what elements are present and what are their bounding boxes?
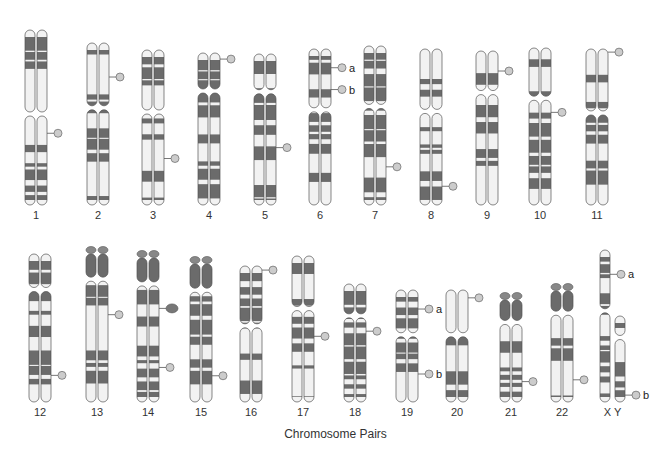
chromosome-16-right: [252, 266, 262, 402]
chromosome-1-right: [37, 30, 47, 205]
chromosome-11-left: [586, 49, 596, 205]
chromosome-5-left: [254, 54, 264, 205]
chromosome-3-left: [142, 50, 152, 205]
chromosome-4-left: [198, 53, 208, 205]
chromosome-label: 6: [317, 209, 323, 221]
chromosome-label: 20: [451, 406, 463, 418]
chromosome-17-right: [304, 256, 314, 402]
svg-text:a: a: [436, 303, 443, 315]
marker-icon: [338, 64, 346, 72]
chromosome-1-left: [25, 30, 35, 205]
chromosome-13-right: [98, 247, 108, 403]
marker-icon: [558, 108, 566, 116]
chromosome-label: 7: [372, 209, 378, 221]
chromosome-18-right: [356, 284, 366, 402]
marker-icon: [269, 266, 277, 274]
chromosome-22-right: [563, 284, 573, 403]
chromosome-4-right: [210, 53, 220, 205]
chromosome-9-left: [476, 51, 486, 205]
chromosome-18-left: [344, 284, 354, 402]
chromosome-11-right: [598, 49, 608, 205]
chromosome-label: 19: [401, 406, 413, 418]
chromosome-12-right: [41, 254, 51, 402]
chromosome-10-left: [529, 48, 539, 205]
chromosome-6-left: [309, 49, 319, 205]
marker-icon: [166, 363, 174, 371]
svg-text:b: b: [643, 389, 649, 401]
marker-icon: [115, 311, 123, 319]
chromosome-20-left: [446, 290, 456, 402]
svg-text:a: a: [628, 268, 635, 280]
marker-icon: [166, 304, 178, 313]
chromosome-label: 12: [34, 406, 46, 418]
chromosome-label: 21: [505, 406, 517, 418]
chromosome-label: 10: [534, 209, 546, 221]
chromosome-14-left: [137, 251, 147, 403]
chromosome-15-right: [202, 257, 212, 403]
chromosome-17-left: [292, 256, 302, 402]
chromosome-label: 8: [428, 209, 434, 221]
marker-icon: [617, 270, 625, 278]
marker-icon: [54, 129, 62, 137]
marker-icon: [219, 372, 227, 380]
marker-icon: [632, 391, 640, 399]
svg-text:b: b: [436, 368, 442, 380]
chromosome-label: 2: [95, 209, 101, 221]
chromosome-label: 4: [206, 209, 212, 221]
marker-icon: [227, 55, 235, 63]
chromosome-label: 14: [142, 406, 154, 418]
chromosome-19-right: [408, 290, 418, 402]
chromosome-7-right: [376, 46, 386, 205]
marker-icon: [615, 48, 623, 56]
marker-icon: [58, 371, 66, 379]
chromosome-2-right: [99, 43, 109, 205]
marker-icon: [580, 376, 588, 384]
diagram-title: Chromosome Pairs: [0, 427, 671, 441]
chromosome-8-right: [432, 49, 442, 205]
chromosome-pairs-figure: 12345ab6789101112131415161718ab19202122a…: [0, 0, 671, 461]
chromosome-16-left: [240, 266, 250, 402]
svg-text:b: b: [349, 84, 355, 96]
chromosome-label: 5: [262, 209, 268, 221]
chromosome-label: 11: [591, 209, 602, 221]
marker-icon: [321, 332, 329, 340]
svg-text:a: a: [349, 62, 356, 74]
chromosome-label: 17: [297, 406, 309, 418]
chromosome-5-right: [266, 54, 276, 205]
chromosome-15-left: [190, 257, 200, 403]
chromosome-label: 16: [245, 406, 257, 418]
chromosome-label: 22: [556, 406, 568, 418]
marker-icon: [505, 67, 513, 75]
chromosome-21-right: [512, 293, 522, 403]
chromosome-6-right: [321, 49, 331, 205]
chromosome-label: 3: [150, 209, 156, 221]
marker-icon: [393, 163, 401, 171]
chromosome-10-right: [541, 48, 551, 205]
chromosome-label: 13: [91, 406, 103, 418]
chromosome-13-left: [86, 247, 96, 403]
chromosome-22-left: [551, 284, 561, 403]
karyotype-diagram: 12345ab6789101112131415161718ab19202122a…: [0, 0, 671, 461]
marker-icon: [449, 182, 457, 190]
chromosome-label: 9: [484, 209, 490, 221]
chromosome-x: [600, 250, 610, 402]
chromosome-20-right: [458, 290, 468, 402]
chromosome-21-left: [500, 293, 510, 403]
chromosome-7-left: [364, 46, 374, 205]
chromosome-label: 15: [195, 406, 207, 418]
chromosome-3-right: [154, 50, 164, 205]
marker-icon: [171, 155, 179, 163]
chromosome-y: [615, 316, 625, 402]
marker-icon: [475, 294, 483, 302]
chromosome-2-left: [87, 43, 97, 205]
chromosome-14-right: [149, 251, 159, 403]
marker-icon: [338, 86, 346, 94]
marker-icon: [283, 144, 291, 152]
chromosome-12-left: [29, 254, 39, 402]
marker-icon: [425, 370, 433, 378]
chromosome-label: 1: [33, 209, 39, 221]
chromosome-8-left: [420, 49, 430, 205]
marker-icon: [529, 378, 537, 386]
marker-icon: [425, 305, 433, 313]
chromosome-9-right: [488, 51, 498, 205]
